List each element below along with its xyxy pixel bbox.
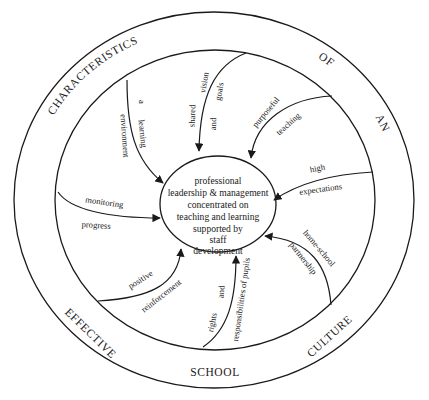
label-a: a <box>137 100 147 104</box>
label-learning: learning <box>137 119 150 149</box>
label-teaching: teaching <box>274 110 303 137</box>
label-environment: environment <box>118 114 131 159</box>
core-line-5: supported by <box>193 223 243 234</box>
label-reinforcement: reinforcement <box>139 276 184 314</box>
core-line-7: development <box>193 245 243 256</box>
core-text: professional leadership & management con… <box>168 175 269 256</box>
core-line-6: staff <box>210 234 228 245</box>
core-line-2: leadership & management <box>168 187 269 198</box>
label-rights: rights <box>205 311 219 333</box>
label-progress: progress <box>81 219 111 231</box>
label-responsibilities-of-pupils: responsibilities of pupils <box>230 256 252 342</box>
ring-word-an: AN <box>373 112 392 134</box>
core-line-3: concentrated on <box>188 199 249 210</box>
label-and: and <box>208 117 218 130</box>
ring-word-school: SCHOOL <box>190 366 240 378</box>
label-shared: shared <box>187 104 198 127</box>
label-high: high <box>309 161 327 174</box>
arrow-shared-vision <box>199 53 246 151</box>
core-line-4: teaching and learning <box>177 211 260 222</box>
label-expectations: expectations <box>299 181 344 197</box>
label-positive: positive <box>126 268 155 291</box>
label-monitoring: monitoring <box>85 194 125 209</box>
ring-word-of: OF <box>317 50 337 69</box>
label-and-2: and <box>216 285 227 299</box>
label-goals: goals <box>213 81 226 101</box>
core-line-1: professional <box>195 175 242 186</box>
school-culture-diagram: CHARACTERISTICS OF AN EFFECTIVE SCHOOL C… <box>0 0 429 400</box>
